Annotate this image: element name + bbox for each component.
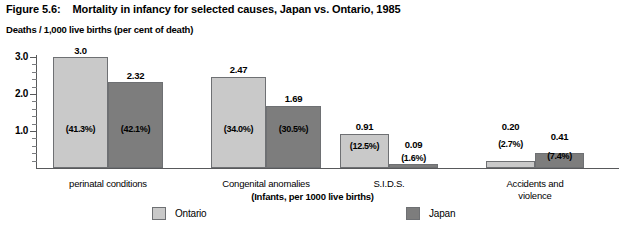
bar-value-congenital-ontario: 2.47	[211, 64, 266, 75]
axis-caption: Deaths / 1,000 live births (per cent of …	[6, 24, 193, 35]
bar-percent-congenital-japan: (30.5%)	[266, 124, 321, 134]
y-tick-label-2: 2.0	[0, 88, 28, 99]
y-tick-label-1: 1.0	[0, 125, 28, 136]
y-tick-major-2	[30, 94, 37, 95]
bar-sids-ontario[interactable]	[340, 134, 389, 168]
y-tick-major-3	[30, 57, 37, 58]
y-tick-minor	[32, 87, 37, 88]
legend-swatch-ontario-icon	[152, 207, 166, 220]
bar-percent-accidents-ontario: (2.7%)	[484, 139, 537, 149]
bar-percent-perinatal-ontario: (41.3%)	[53, 124, 108, 134]
bar-value-perinatal-japan: 2.32	[108, 70, 163, 81]
bar-accidents-ontario[interactable]	[486, 161, 535, 168]
category-label-perinatal-conditions: perinatal conditions	[38, 178, 178, 190]
legend-item-ontario[interactable]: Ontario	[152, 207, 206, 220]
y-tick-minor	[32, 101, 37, 102]
legend-item-japan[interactable]: Japan	[406, 207, 455, 220]
y-tick-minor	[32, 72, 37, 73]
bar-value-accidents-ontario: 0.20	[486, 121, 535, 132]
bar-sids-japan[interactable]	[389, 164, 438, 168]
bar-perinatal-ontario[interactable]	[53, 57, 108, 168]
bar-percent-accidents-japan: (7.4%)	[533, 151, 586, 161]
category-label-sids: S.I.D.S.	[324, 178, 454, 190]
bar-chart-plot-area: 3.0 2.0 1.0 3.0 (41.3%) 2.32 (42.1%) 2.4…	[0, 45, 625, 175]
bar-percent-sids-japan: (1.6%)	[387, 153, 440, 163]
bar-value-sids-ontario: 0.91	[340, 121, 389, 132]
y-tick-label-3: 3.0	[0, 51, 28, 62]
y-tick-minor	[32, 79, 37, 80]
y-tick-major-1	[30, 131, 37, 132]
bar-value-sids-japan: 0.09	[389, 139, 438, 150]
bar-percent-congenital-ontario: (34.0%)	[211, 124, 266, 134]
bar-congenital-ontario[interactable]	[211, 77, 266, 168]
y-tick-minor	[32, 64, 37, 65]
bar-percent-sids-ontario: (12.5%)	[338, 141, 391, 151]
y-tick-minor	[32, 116, 37, 117]
figure-title-text: Mortality in infancy for selected causes…	[73, 3, 401, 15]
figure-title: Figure 5.6:Mortality in infancy for sele…	[6, 3, 400, 15]
bar-value-perinatal-ontario: 3.0	[53, 45, 108, 56]
units-note: (Infants, per 1000 live births)	[0, 191, 625, 202]
bar-value-accidents-japan: 0.41	[535, 131, 584, 142]
x-axis-baseline	[36, 168, 619, 169]
chart-legend: Ontario Japan	[0, 207, 625, 227]
figure-number: Figure 5.6:	[6, 3, 61, 15]
bar-value-congenital-japan: 1.69	[266, 93, 321, 104]
legend-label-japan: Japan	[429, 208, 455, 219]
y-tick-minor	[32, 146, 37, 147]
bar-congenital-japan[interactable]	[266, 106, 321, 169]
y-tick-minor	[32, 138, 37, 139]
bar-percent-perinatal-japan: (42.1%)	[108, 124, 163, 134]
y-tick-minor	[32, 161, 37, 162]
legend-label-ontario: Ontario	[175, 208, 206, 219]
legend-swatch-japan-icon	[406, 207, 420, 220]
category-label-congenital-anomalies: Congenital anomalies	[196, 178, 336, 190]
y-tick-minor	[32, 153, 37, 154]
y-tick-minor	[32, 124, 37, 125]
y-tick-minor	[32, 109, 37, 110]
